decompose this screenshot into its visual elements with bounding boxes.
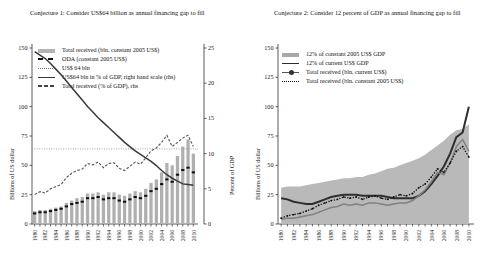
svg-text:1980: 1980 xyxy=(32,230,38,241)
svg-text:150: 150 xyxy=(264,44,273,51)
svg-text:150: 150 xyxy=(18,44,27,51)
svg-text:75: 75 xyxy=(267,132,273,139)
svg-text:1992: 1992 xyxy=(353,230,359,241)
figure-two-panel-charts: Conjecture 1: Consider US$64 billion as … xyxy=(0,0,488,265)
svg-text:1988: 1988 xyxy=(328,230,334,241)
svg-text:2006: 2006 xyxy=(169,230,175,241)
plot-area-left: 0255075100125150051015202519801982198419… xyxy=(0,0,244,265)
svg-text:1984: 1984 xyxy=(53,230,59,241)
svg-text:10: 10 xyxy=(208,150,214,157)
svg-text:15: 15 xyxy=(208,114,214,121)
svg-text:2008: 2008 xyxy=(454,230,460,241)
svg-text:1998: 1998 xyxy=(127,230,133,241)
chart-panel-conjecture-2: Conjecture 2: Consider 12 percent of GDP… xyxy=(244,0,488,265)
svg-text:50: 50 xyxy=(21,161,27,168)
svg-text:1982: 1982 xyxy=(291,230,297,241)
svg-text:5: 5 xyxy=(208,185,211,192)
svg-text:125: 125 xyxy=(264,73,273,80)
svg-text:50: 50 xyxy=(267,161,273,168)
svg-text:25: 25 xyxy=(21,191,27,198)
svg-text:2006: 2006 xyxy=(441,230,447,241)
svg-text:1984: 1984 xyxy=(303,230,309,241)
svg-text:1980: 1980 xyxy=(278,230,284,241)
svg-text:1994: 1994 xyxy=(366,230,372,241)
svg-text:0: 0 xyxy=(24,220,27,227)
svg-text:100: 100 xyxy=(264,103,273,110)
svg-text:100: 100 xyxy=(18,103,27,110)
svg-text:0: 0 xyxy=(208,220,211,227)
svg-text:125: 125 xyxy=(18,73,27,80)
svg-text:1998: 1998 xyxy=(391,230,397,241)
svg-text:2004: 2004 xyxy=(429,230,435,241)
svg-text:0: 0 xyxy=(270,220,273,227)
plot-area-right: 0255075100125150198019821984198619881990… xyxy=(244,0,488,265)
svg-text:20: 20 xyxy=(208,79,214,86)
svg-text:1996: 1996 xyxy=(378,230,384,241)
svg-text:1986: 1986 xyxy=(316,230,322,241)
svg-text:2010: 2010 xyxy=(191,230,197,241)
svg-text:1982: 1982 xyxy=(42,230,48,241)
svg-text:1992: 1992 xyxy=(95,230,101,241)
svg-text:1990: 1990 xyxy=(85,230,91,241)
svg-text:2008: 2008 xyxy=(180,230,186,241)
svg-text:1988: 1988 xyxy=(74,230,80,241)
svg-text:2000: 2000 xyxy=(138,230,144,241)
svg-text:75: 75 xyxy=(21,132,27,139)
svg-text:1996: 1996 xyxy=(116,230,122,241)
svg-text:1994: 1994 xyxy=(106,230,112,241)
svg-text:1986: 1986 xyxy=(64,230,70,241)
svg-text:2002: 2002 xyxy=(148,230,154,241)
chart-panel-conjecture-1: Conjecture 1: Consider US$64 billion as … xyxy=(0,0,244,265)
svg-text:2002: 2002 xyxy=(416,230,422,241)
svg-text:2000: 2000 xyxy=(403,230,409,241)
svg-text:2004: 2004 xyxy=(159,230,165,241)
svg-text:25: 25 xyxy=(267,191,273,198)
svg-text:2010: 2010 xyxy=(466,230,472,241)
svg-text:1990: 1990 xyxy=(341,230,347,241)
svg-text:25: 25 xyxy=(208,44,214,51)
